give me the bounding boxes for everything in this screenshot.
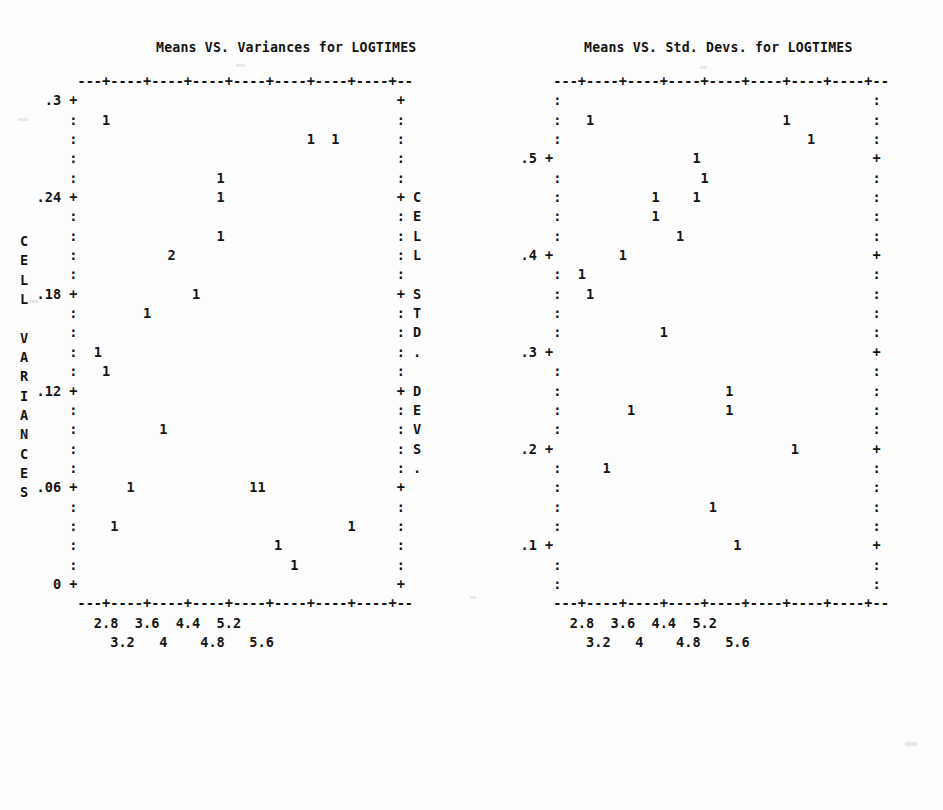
ascii-row: : 1 : <box>496 285 889 304</box>
ascii-row: : : <box>496 478 889 497</box>
ascii-row: : 1 : <box>496 382 889 401</box>
ascii-row: .3 + + <box>496 343 889 362</box>
ascii-row: .12 + + D <box>12 382 421 401</box>
ascii-row: : 1 1 : <box>12 130 421 149</box>
ascii-row: 2.8 3.6 4.4 5.2 <box>496 614 889 633</box>
plot-title-stddevs: Means VS. Std. Devs. for LOGTIMES <box>496 38 889 58</box>
ascii-row: : 1 1 : <box>12 517 421 536</box>
ascii-row: : 1 : <box>496 130 889 149</box>
ascii-row: : : <box>496 556 889 575</box>
ascii-row: 3.2 4 4.8 5.6 <box>496 633 889 652</box>
ascii-row: .1 + 1 + <box>496 536 889 555</box>
ascii-row: : : E <box>12 207 421 226</box>
ascii-row: : 1 : . <box>12 343 421 362</box>
ascii-row: : : D <box>12 323 421 342</box>
ascii-row: : 1 : <box>496 169 889 188</box>
ascii-row: : : <box>496 362 889 381</box>
ascii-row: : : <box>496 304 889 323</box>
ascii-row: : : <box>12 149 421 168</box>
ascii-row: : 1 : <box>496 459 889 478</box>
ascii-row: : : S <box>12 440 421 459</box>
ascii-row: : 2 : L <box>12 246 421 265</box>
ascii-row: : 1 : <box>12 362 421 381</box>
ascii-row: : : <box>12 265 421 284</box>
ascii-row: 3.2 4 4.8 5.6 <box>12 633 421 652</box>
ascii-plot-variances: ---+----+----+----+----+----+----+----+-… <box>12 72 421 652</box>
ascii-row: : 1 : <box>12 169 421 188</box>
ascii-row: : : <box>496 575 889 594</box>
ascii-row: : : <box>496 517 889 536</box>
plot-panel-stddevs: Means VS. Std. Devs. for LOGTIMES ---+--… <box>496 38 889 652</box>
plot-panel-variances: Means VS. Variances for LOGTIMES ---+---… <box>12 38 421 652</box>
printout-page: Means VS. Variances for LOGTIMES ---+---… <box>0 0 943 810</box>
ascii-row: .3 + + <box>12 91 421 110</box>
ascii-row: .4 + 1 + <box>496 246 889 265</box>
ascii-row: ---+----+----+----+----+----+----+----+-… <box>12 594 421 613</box>
ascii-row: : 1 : <box>496 227 889 246</box>
ascii-row: : 1 : <box>496 207 889 226</box>
paper-speck <box>470 596 476 599</box>
ascii-plot-stddevs: ---+----+----+----+----+----+----+----+-… <box>496 72 889 652</box>
ascii-row: : 1 : <box>496 323 889 342</box>
ascii-row: 0 + + <box>12 575 421 594</box>
ascii-row: .18 + 1 + S <box>12 285 421 304</box>
ascii-row: : 1 : <box>496 498 889 517</box>
ascii-row: : : <box>496 91 889 110</box>
y-axis-label-cell-variances: C E L L V A R I A N C E S <box>20 232 28 503</box>
ascii-row: .5 + 1 + <box>496 149 889 168</box>
ascii-row: ---+----+----+----+----+----+----+----+-… <box>496 594 889 613</box>
ascii-row: : 1 1 : <box>496 401 889 420</box>
ascii-row: : : E <box>12 401 421 420</box>
ascii-row: .2 + 1 + <box>496 440 889 459</box>
ascii-row: 2.8 3.6 4.4 5.2 <box>12 614 421 633</box>
plot-title-variances: Means VS. Variances for LOGTIMES <box>12 38 421 58</box>
ascii-row: : 1 : <box>496 265 889 284</box>
ascii-row: .06 + 1 11 + <box>12 478 421 497</box>
ascii-row: : 1 : <box>12 111 421 130</box>
ascii-row: : 1 : <box>12 556 421 575</box>
ascii-row: : 1 : V <box>12 420 421 439</box>
ascii-row: ---+----+----+----+----+----+----+----+-… <box>12 72 421 91</box>
ascii-row: : : . <box>12 459 421 478</box>
ascii-row: : 1 : <box>12 536 421 555</box>
ascii-row: : 1 1 : <box>496 188 889 207</box>
ascii-row: ---+----+----+----+----+----+----+----+-… <box>496 72 889 91</box>
ascii-row: .24 + 1 + C <box>12 188 421 207</box>
ascii-row: : : <box>12 498 421 517</box>
ascii-row: : 1 : T <box>12 304 421 323</box>
ascii-row: : 1 1 : <box>496 111 889 130</box>
paper-speck <box>905 742 917 746</box>
ascii-row: : : <box>496 420 889 439</box>
ascii-row: : 1 : L <box>12 227 421 246</box>
